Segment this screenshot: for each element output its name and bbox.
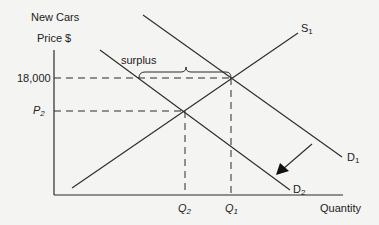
diagram-title: New Cars	[31, 12, 79, 23]
d2-main: D	[293, 183, 301, 195]
q2-sub: 2	[187, 207, 191, 216]
p2-sub: 2	[40, 109, 44, 118]
d1-sub: 1	[355, 156, 359, 165]
q2-main: Q	[178, 202, 187, 214]
demand-curve-d1	[143, 15, 342, 157]
d1-main: D	[347, 151, 355, 163]
s1-label: S1	[301, 23, 313, 34]
quantity-tick-q2: Q2	[178, 203, 191, 214]
price-tick-p2: P2	[33, 105, 45, 116]
x-axis-label: Quantity	[320, 203, 361, 214]
price-tick-18000: 18,000	[17, 73, 51, 84]
d2-label: D2	[293, 184, 305, 195]
d1-label: D1	[347, 152, 359, 163]
demand-curve-d2	[100, 50, 290, 190]
q1-main: Q	[225, 202, 234, 214]
shift-arrow-shaft	[283, 144, 312, 169]
quantity-tick-q1: Q1	[225, 203, 238, 214]
d2-sub: 2	[301, 188, 305, 197]
surplus-label: surplus	[121, 55, 156, 66]
q1-sub: 1	[234, 207, 238, 216]
s1-sub: 1	[308, 27, 312, 36]
y-axis-label: Price $	[37, 33, 71, 44]
surplus-brace	[139, 67, 231, 78]
